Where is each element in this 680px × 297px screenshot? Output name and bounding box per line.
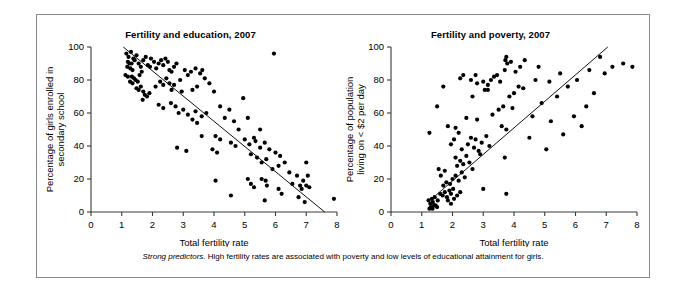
data-point (503, 68, 507, 72)
data-point (435, 205, 439, 209)
data-point (166, 60, 170, 64)
data-point (267, 147, 271, 151)
caption-lead: Strong predictors. (142, 252, 205, 261)
data-point (481, 80, 485, 84)
data-point (441, 85, 445, 89)
trend-line (436, 47, 608, 196)
data-point (203, 76, 207, 80)
x-tick-label: 7 (604, 219, 609, 230)
data-point (303, 200, 307, 204)
data-point (306, 174, 310, 178)
data-point (178, 78, 182, 82)
y-tick-label: 60 (373, 107, 384, 118)
x-tick-label: 8 (634, 219, 639, 230)
data-point (561, 132, 565, 136)
data-point (264, 157, 268, 161)
data-point (260, 177, 264, 181)
data-point (130, 68, 134, 72)
data-point (437, 167, 441, 171)
data-point (212, 89, 216, 93)
trend-line (123, 47, 324, 212)
data-point (486, 88, 490, 92)
y-tick-label: 80 (373, 74, 384, 85)
data-point (470, 167, 474, 171)
data-point (504, 192, 508, 196)
data-point (184, 149, 188, 153)
data-point (505, 61, 509, 65)
data-point (533, 78, 537, 82)
figure-frame: Fertility and education, 2007 0204060801… (36, 14, 650, 278)
data-point (263, 198, 267, 202)
data-point (229, 193, 233, 197)
data-point (175, 146, 179, 150)
data-point (473, 137, 477, 141)
data-point (264, 179, 268, 183)
data-point (263, 141, 267, 145)
x-tick-label: 1 (419, 219, 424, 230)
data-point (495, 73, 499, 77)
data-point (233, 144, 237, 148)
data-point (210, 147, 214, 151)
x-tick-label: 0 (388, 219, 393, 230)
data-point (283, 160, 287, 164)
x-tick-label: 0 (88, 219, 93, 230)
data-point (246, 177, 250, 181)
data-point (461, 73, 465, 77)
data-point (467, 160, 471, 164)
data-point (237, 127, 241, 131)
data-point (501, 104, 505, 108)
data-point (140, 70, 144, 74)
data-point (183, 68, 187, 72)
data-point (523, 58, 527, 62)
data-point (449, 202, 453, 206)
y-tick-label: 0 (79, 206, 84, 217)
scatter-plot-education: 020406080100012345678Total fertility rat… (37, 15, 344, 247)
data-point (241, 96, 245, 100)
data-point (587, 68, 591, 72)
data-point (169, 88, 173, 92)
data-point (517, 85, 521, 89)
data-point (173, 104, 177, 108)
data-point (139, 65, 143, 69)
data-point (307, 185, 311, 189)
data-point (621, 61, 625, 65)
data-point (507, 94, 511, 98)
data-point (195, 85, 199, 89)
x-tick-label: 3 (181, 219, 186, 230)
data-point (475, 118, 479, 122)
data-point (153, 85, 157, 89)
data-point (435, 104, 439, 108)
data-point (497, 108, 501, 112)
x-tick-label: 2 (450, 219, 455, 230)
data-point (144, 55, 148, 59)
data-point (252, 185, 256, 189)
data-point (133, 58, 137, 62)
data-point (218, 137, 222, 141)
data-point (472, 146, 476, 150)
x-tick-label: 4 (511, 219, 516, 230)
x-tick-label: 1 (119, 219, 124, 230)
data-point (139, 85, 143, 89)
data-point (300, 187, 304, 191)
x-tick-label: 3 (481, 219, 486, 230)
chart-panel-fertility-poverty: Fertility and poverty, 2007 020406080100… (337, 15, 644, 247)
data-point (480, 141, 484, 145)
data-point (580, 124, 584, 128)
x-tick-label: 2 (150, 219, 155, 230)
data-point (464, 154, 468, 158)
data-point (161, 83, 165, 87)
data-point (451, 187, 455, 191)
x-tick-label: 6 (573, 219, 578, 230)
data-point (249, 182, 253, 186)
caption-rest: High fertility rates are associated with… (206, 252, 544, 261)
data-point (566, 85, 570, 89)
data-point (504, 127, 508, 131)
data-point (512, 91, 516, 95)
data-point (186, 73, 190, 77)
data-point (549, 119, 553, 123)
data-point (296, 195, 300, 199)
y-axis-title-line: secondary school (55, 93, 66, 167)
data-point (458, 159, 462, 163)
data-point (500, 124, 504, 128)
data-point (527, 136, 531, 140)
